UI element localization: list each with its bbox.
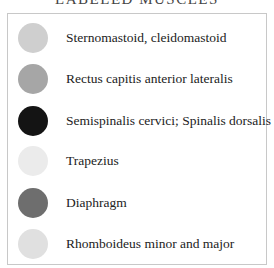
legend-item-label: Trapezius	[66, 153, 119, 169]
legend-box: Sternomastoid, cleidomastoid Rectus capi…	[7, 13, 267, 265]
color-swatch-icon	[18, 23, 48, 53]
legend-item-label: Semispinalis cervici; Spinalis dorsalis	[66, 113, 271, 129]
legend-item: Trapezius	[8, 144, 266, 178]
color-swatch-icon	[18, 229, 48, 259]
legend-item: Rhomboideus minor and major	[8, 227, 266, 261]
color-swatch-icon	[18, 106, 48, 136]
legend-item: Semispinalis cervici; Spinalis dorsalis	[8, 104, 266, 138]
color-swatch-icon	[18, 64, 48, 94]
color-swatch-icon	[18, 146, 48, 176]
legend-item: Rectus capitis anterior lateralis	[8, 62, 266, 96]
legend-title: LABELED MUSCLES	[0, 0, 274, 8]
legend-item-label: Sternomastoid, cleidomastoid	[66, 30, 226, 46]
legend-item: Diaphragm	[8, 186, 266, 220]
color-swatch-icon	[18, 188, 48, 218]
legend-item-label: Rectus capitis anterior lateralis	[66, 71, 233, 87]
legend-item-label: Rhomboideus minor and major	[66, 236, 234, 252]
legend-item: Sternomastoid, cleidomastoid	[8, 21, 266, 55]
legend-item-label: Diaphragm	[66, 195, 127, 211]
